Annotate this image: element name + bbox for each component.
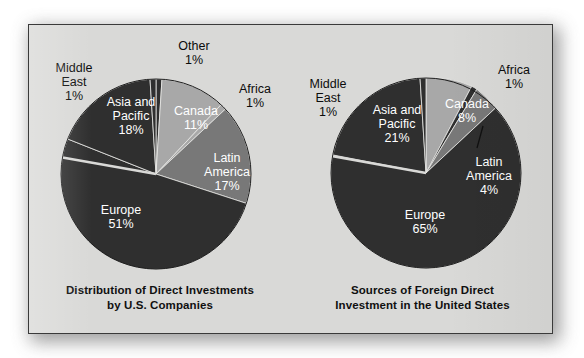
label-canada: Canada 11% xyxy=(160,104,232,132)
chart-sources-of-foreign-direct-investment: Middle East 1% Africa 1% Asia and Pacifi… xyxy=(291,25,553,333)
chart-caption-left: Distribution of Direct Investments by U.… xyxy=(29,283,291,313)
label-canada: Canada 8% xyxy=(431,97,503,125)
label-other: Other 1% xyxy=(159,39,229,67)
label-europe: Europe 51% xyxy=(79,203,163,231)
figure-panel: Middle East 1% Other 1% Africa 1% Asia a… xyxy=(28,24,553,334)
label-latin-america: Latin America 4% xyxy=(446,155,532,197)
label-europe: Europe 65% xyxy=(383,208,467,236)
label-africa: Africa 1% xyxy=(479,63,549,91)
figure-root: Middle East 1% Other 1% Africa 1% Asia a… xyxy=(0,0,584,358)
chart-caption-right: Sources of Foreign Direct Investment in … xyxy=(291,283,553,313)
label-latin-america: Latin America 17% xyxy=(184,151,270,193)
chart-distribution-of-direct-investments: Middle East 1% Other 1% Africa 1% Asia a… xyxy=(29,25,291,333)
